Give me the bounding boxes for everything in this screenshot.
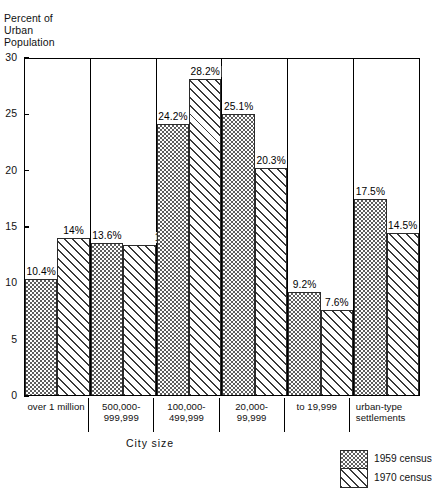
bar-group-20000-99999: 25.1% 20.3% (222, 59, 288, 395)
y-tick-label: 20 (0, 164, 17, 177)
x-label-to-19999: to 19,999 (285, 398, 350, 432)
x-label-100000-499999: 100,000- 499,999 (154, 398, 219, 432)
x-axis-category-labels: over 1 million 500,000- 999,999 100,000-… (24, 398, 420, 432)
bar-value-label: 10.4% (26, 266, 57, 277)
bar-1970-20000-99999[interactable]: 20.3% (255, 168, 287, 395)
legend-label: 1959 census (374, 453, 432, 464)
bar-group-to-19999: 9.2% 7.6% (288, 59, 354, 395)
checkerboard-swatch-icon (340, 450, 368, 469)
bar-1959-500000-999999[interactable]: 13.6% (91, 243, 123, 395)
x-label-over-1-million: over 1 million (24, 398, 89, 432)
bar-1970-500000-999999[interactable]: 13.4% (123, 245, 155, 395)
y-axis-title: Percent of Urban Population (4, 12, 55, 49)
y-tick-label: 25 (0, 107, 17, 120)
bar-group-500000-999999: 13.6% 13.4% (91, 59, 157, 395)
x-label-500000-999999: 500,000- 999,999 (89, 398, 154, 432)
bar-1959-to-19999[interactable]: 9.2% (288, 292, 320, 395)
y-axis: 30 25 20 15 10 5 0 (0, 58, 24, 396)
bar-1970-100000-499999[interactable]: 28.2% (189, 79, 221, 395)
bar-group-urban-type-settlements: 17.5% 14.5% (354, 59, 419, 395)
bar-1959-urban-type-settlements[interactable]: 17.5% (354, 199, 386, 395)
x-label-20000-99999: 20,000- 99,999 (220, 398, 285, 432)
x-axis-title: City size (0, 437, 300, 449)
bar-value-label: 7.6% (324, 297, 350, 308)
bar-value-label: 28.2% (190, 66, 221, 77)
bar-1959-100000-499999[interactable]: 24.2% (157, 124, 189, 395)
bar-1959-20000-99999[interactable]: 25.1% (222, 114, 254, 395)
bar-1970-over-1-million[interactable]: 14% (57, 238, 89, 395)
y-tick-label: 15 (0, 220, 17, 233)
bar-1959-over-1-million[interactable]: 10.4% (25, 279, 57, 395)
y-tick-label: 10 (0, 276, 17, 289)
bar-groups: 10.4% 14% 13.6% 13.4% 24.2% 28 (25, 59, 419, 395)
plot-area: 10.4% 14% 13.6% 13.4% 24.2% 28 (24, 58, 420, 396)
bar-value-label: 14.5% (387, 220, 418, 231)
bar-group-100000-499999: 24.2% 28.2% (157, 59, 223, 395)
diagonal-hatch-swatch-icon (340, 469, 368, 488)
x-label-urban-type-settlements: urban-type settlements (350, 398, 420, 432)
bar-value-label: 13.6% (91, 230, 122, 241)
bar-value-label: 17.5% (355, 186, 386, 197)
y-tick-label: 30 (0, 51, 17, 64)
y-tick-label: 5 (0, 333, 17, 346)
bar-value-label: 25.1% (223, 101, 254, 112)
bar-value-label: 24.2% (157, 111, 188, 122)
bar-1970-to-19999[interactable]: 7.6% (321, 310, 353, 395)
y-tick-label: 0 (0, 389, 17, 402)
bar-value-label: 20.3% (255, 155, 286, 166)
bar-value-label: 14% (62, 225, 85, 236)
bar-group-over-1-million: 10.4% 14% (25, 59, 91, 395)
legend-label: 1970 census (374, 472, 432, 483)
bar-value-label: 9.2% (292, 279, 318, 290)
bar-1970-urban-type-settlements[interactable]: 14.5% (387, 233, 419, 395)
